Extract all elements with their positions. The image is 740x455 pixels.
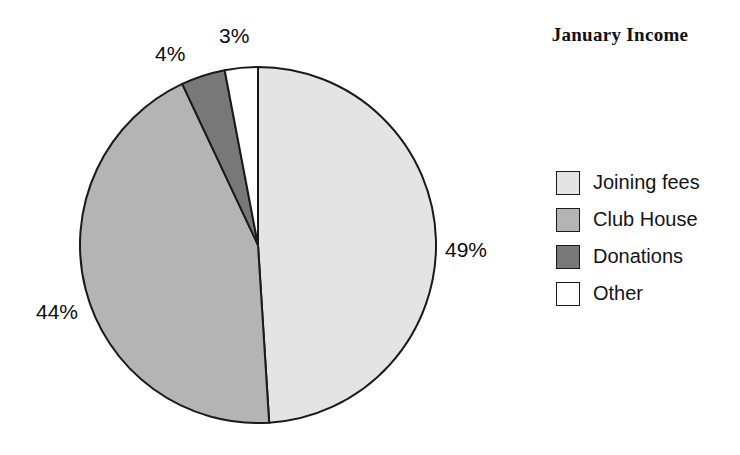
legend-item-donations[interactable]: Donations bbox=[556, 238, 700, 275]
legend-item-joining-fees[interactable]: Joining fees bbox=[556, 164, 700, 201]
data-label-club-house: 44% bbox=[36, 300, 78, 324]
chart-title: January Income bbox=[500, 24, 740, 46]
legend-item-other[interactable]: Other bbox=[556, 275, 700, 312]
pie-slices bbox=[80, 67, 436, 423]
legend-label-club-house: Club House bbox=[593, 208, 698, 231]
data-label-joining-fees: 49% bbox=[445, 238, 487, 262]
data-label-other: 3% bbox=[219, 24, 249, 48]
legend-item-club-house[interactable]: Club House bbox=[556, 201, 700, 238]
legend-label-donations: Donations bbox=[593, 245, 683, 268]
pie-chart-svg bbox=[70, 55, 450, 440]
pie-chart bbox=[70, 55, 450, 440]
legend-label-other: Other bbox=[593, 282, 643, 305]
legend: Joining fees Club House Donations Other bbox=[556, 164, 700, 312]
legend-swatch-joining-fees bbox=[556, 171, 580, 195]
legend-swatch-donations bbox=[556, 245, 580, 269]
data-label-donations: 4% bbox=[155, 42, 185, 66]
pie-slice-joining-fees[interactable] bbox=[258, 67, 436, 423]
chart-page: January Income 49% 44% 4% 3% Joining fee… bbox=[0, 0, 740, 455]
legend-swatch-club-house bbox=[556, 208, 580, 232]
legend-label-joining-fees: Joining fees bbox=[593, 171, 700, 194]
legend-swatch-other bbox=[556, 282, 580, 306]
